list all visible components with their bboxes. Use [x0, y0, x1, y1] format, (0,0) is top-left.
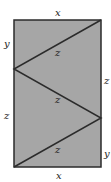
label-left-y: y [3, 38, 10, 49]
label-right-z: z [103, 75, 110, 86]
label-bottom-x: x [56, 170, 62, 181]
segment-label-3: z [54, 144, 61, 155]
label-right-y: y [103, 148, 110, 159]
zigzag-rectangle-diagram: x x y z z y z z z [0, 0, 111, 182]
label-left-z: z [3, 110, 10, 121]
label-top-x: x [55, 7, 61, 18]
segment-label-1: z [54, 47, 61, 58]
segment-label-2: z [54, 94, 61, 105]
